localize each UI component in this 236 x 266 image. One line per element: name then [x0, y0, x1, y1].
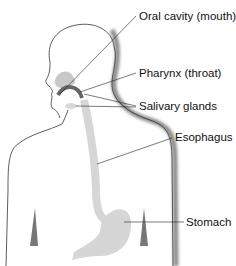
left-fold: [30, 208, 38, 246]
leader-esophagus: [97, 138, 172, 164]
leader-pharynx: [80, 73, 136, 92]
leader-salivary-1: [84, 94, 136, 106]
label-esophagus: Esophagus: [175, 132, 233, 144]
salivary-gland-shape: [65, 103, 77, 109]
right-fold: [140, 208, 148, 246]
label-salivary-glands: Salivary glands: [139, 101, 217, 113]
leader-oral-cavity: [60, 16, 136, 94]
label-stomach: Stomach: [186, 217, 231, 229]
label-oral-cavity: Oral cavity (mouth): [139, 11, 236, 23]
label-pharynx: Pharynx (throat): [139, 68, 221, 80]
